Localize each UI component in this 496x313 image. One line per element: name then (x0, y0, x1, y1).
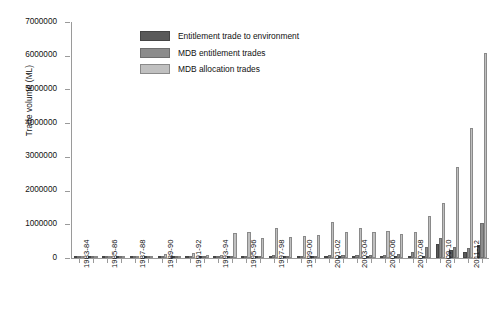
bar-group (366, 22, 377, 258)
x-axis-tick (121, 259, 122, 263)
y-axis-tick-label: 1000000 (0, 219, 57, 228)
x-axis-tick (426, 259, 427, 263)
y-axis-tick (65, 89, 70, 90)
bar-group (435, 22, 446, 258)
legend-swatch-icon-mdb-entitlement-trades (140, 48, 170, 58)
bar-group (421, 22, 432, 258)
x-axis-tick (79, 259, 80, 263)
chart-legend: Entitlement trade to environment MDB ent… (140, 31, 299, 74)
x-axis-tick (107, 259, 108, 263)
bar-group (380, 22, 391, 258)
bar (345, 232, 348, 258)
y-axis-tick-label: 0 (0, 253, 57, 262)
bar-group (463, 22, 474, 258)
x-axis-tick (218, 259, 219, 263)
x-axis-tick-label: 2003-04 (360, 239, 369, 268)
x-axis-tick (413, 259, 414, 263)
x-axis-tick (274, 259, 275, 263)
x-axis-tick-label: 2011-12 (472, 240, 481, 268)
y-axis-tick (65, 258, 70, 259)
y-axis-tick (65, 123, 70, 124)
bar (372, 232, 375, 258)
x-axis-tick (315, 259, 316, 263)
x-axis-tick-label: 1999-00 (305, 239, 314, 268)
legend-label-0: Entitlement trade to environment (178, 31, 299, 41)
x-axis-tick (93, 259, 94, 263)
bar-group (102, 22, 113, 258)
y-axis-tick-label: 2000000 (0, 185, 57, 194)
bar (233, 233, 236, 258)
x-axis-tick-label: 1993-94 (221, 239, 230, 268)
x-axis-tick (232, 259, 233, 263)
bar (150, 256, 153, 258)
legend-label-2: MDB allocation trades (178, 64, 260, 74)
bar-chart: Trade volume (ML) 0100000020000003000000… (0, 0, 496, 313)
bar-group (74, 22, 85, 258)
bar-group (393, 22, 404, 258)
x-axis-tick-label: 1991-92 (194, 239, 203, 268)
legend-item-1: MDB entitlement trades (140, 48, 299, 58)
x-axis-tick (343, 259, 344, 263)
bar-group (477, 22, 488, 258)
x-axis-tick-label: 1987-88 (138, 239, 147, 268)
x-axis-tick-label: 2001-02 (333, 239, 342, 268)
bar-group (88, 22, 99, 258)
x-axis-tick (357, 259, 358, 263)
x-axis-tick (135, 259, 136, 263)
x-axis-tick (287, 259, 288, 263)
bar-group (324, 22, 335, 258)
bar-group (407, 22, 418, 258)
legend-item-0: Entitlement trade to environment (140, 31, 299, 41)
bar (178, 256, 181, 258)
y-axis-tick (65, 224, 70, 225)
bar (428, 216, 431, 258)
bar (289, 237, 292, 258)
x-axis-tick-label: 1989-90 (166, 239, 175, 268)
x-axis-tick (399, 259, 400, 263)
bar (206, 255, 209, 258)
y-axis-tick (65, 157, 70, 158)
x-axis-tick (176, 259, 177, 263)
x-axis-tick (385, 259, 386, 263)
x-axis-tick-label: 2005-06 (388, 239, 397, 268)
x-axis-tick-label: 1995-96 (249, 239, 258, 268)
bar (261, 238, 264, 258)
bar (317, 235, 320, 258)
x-axis-tick-label: 1997-98 (277, 239, 286, 268)
bar (122, 256, 125, 258)
bar-group (310, 22, 321, 258)
x-axis-tick (190, 259, 191, 263)
y-axis-tick (65, 56, 70, 57)
bar (400, 234, 403, 258)
x-axis-tick-label: 1983-84 (82, 239, 91, 268)
legend-swatch-icon-mdb-allocation-trades (140, 64, 170, 74)
y-axis-tick (65, 22, 70, 23)
bar-group (352, 22, 363, 258)
x-axis-tick (468, 259, 469, 263)
x-axis-tick (482, 259, 483, 263)
bar-group (129, 22, 140, 258)
x-axis-tick (260, 259, 261, 263)
y-axis-tick (65, 191, 70, 192)
y-axis-tick-label: 4000000 (0, 118, 57, 127)
x-axis-tick (454, 259, 455, 263)
x-axis-tick-label: 1985-86 (110, 239, 119, 268)
legend-swatch-icon-entitlement-trade-to-environment (140, 31, 170, 41)
bar-group (115, 22, 126, 258)
x-axis-tick (148, 259, 149, 263)
bar (456, 167, 459, 258)
bar (470, 128, 473, 258)
x-axis-tick (204, 259, 205, 263)
legend-item-2: MDB allocation trades (140, 64, 299, 74)
bar-group (449, 22, 460, 258)
x-axis-tick (329, 259, 330, 263)
x-axis-tick (301, 259, 302, 263)
x-axis-tick (371, 259, 372, 263)
x-axis-tick-label: 2009-10 (444, 239, 453, 268)
x-axis-tick (246, 259, 247, 263)
x-axis-tick (162, 259, 163, 263)
y-axis-tick-label: 7000000 (0, 17, 57, 26)
y-axis-tick-label: 5000000 (0, 84, 57, 93)
bar (94, 256, 97, 258)
x-axis-tick (440, 259, 441, 263)
